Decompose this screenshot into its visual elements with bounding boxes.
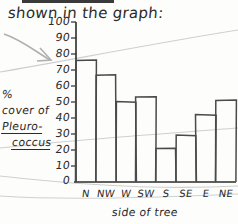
bar-w <box>116 102 136 182</box>
y-axis-label-line-2: cover of <box>1 104 50 117</box>
x-tick-label-n: N <box>75 188 97 199</box>
x-tick-label-w: W <box>115 188 137 199</box>
bar-sw <box>136 97 157 182</box>
bar-nw <box>96 75 116 182</box>
bar-group <box>76 60 237 182</box>
x-tick-label-nw: NW <box>95 188 117 199</box>
y-axis-label-line-3: Pleuro- <box>1 120 44 134</box>
x-tick-label-ne: NE <box>214 188 238 199</box>
y-tick-label-70: 70 <box>43 63 71 76</box>
y-tick-label-80: 80 <box>43 47 71 60</box>
bar-s <box>156 148 177 182</box>
x-tick-label-se: SE <box>175 188 197 199</box>
y-tick-label-100: 100 <box>43 15 71 28</box>
y-axis-label-line-4: coccus <box>11 136 52 150</box>
y-tick-label-90: 90 <box>43 31 71 44</box>
x-tick-label-s: S <box>155 188 177 199</box>
bar-se <box>176 135 197 182</box>
y-tick-label-60: 60 <box>43 79 71 92</box>
x-tick-label-sw: SW <box>135 188 157 199</box>
bar-ne <box>216 100 237 182</box>
y-tick-label-0: 0 <box>43 174 71 187</box>
bar-n <box>76 60 97 182</box>
y-tick-label-10: 10 <box>43 159 71 172</box>
x-axis-label: side of tree <box>111 206 179 219</box>
bar-e <box>196 115 217 182</box>
y-axis-label-line-1: % <box>1 88 14 101</box>
worksheet-page: shown in the graph: <box>0 0 238 224</box>
